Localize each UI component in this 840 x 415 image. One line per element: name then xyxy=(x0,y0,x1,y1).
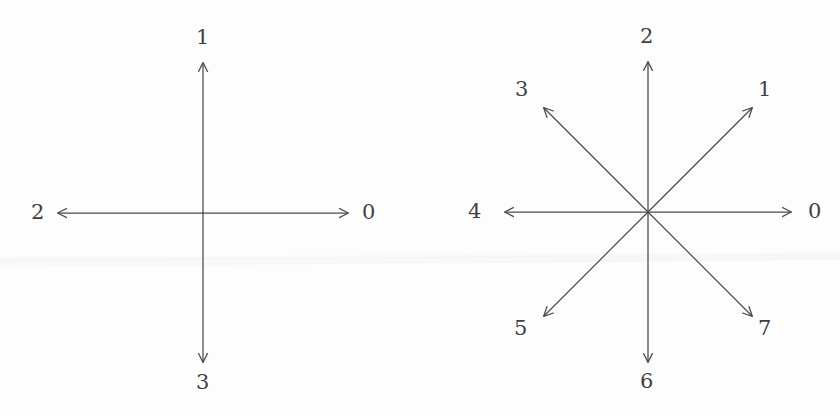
direction-label-2: 2 xyxy=(31,202,45,223)
eight-direction-diagram: 0 1 2 3 4 5 6 7 xyxy=(420,0,840,415)
direction-label-7: 7 xyxy=(758,318,772,339)
arrow-dir-1 xyxy=(648,108,752,212)
direction-label-4: 4 xyxy=(468,201,482,222)
direction-label-3: 3 xyxy=(196,372,210,393)
arrow-dir-5 xyxy=(544,212,648,316)
eight-direction-axes-svg xyxy=(420,0,840,415)
figure-page: 0 1 2 3 0 1 2 3 4 xyxy=(0,0,840,415)
direction-label-5: 5 xyxy=(514,318,528,339)
direction-label-0: 0 xyxy=(808,201,822,222)
direction-label-0: 0 xyxy=(362,202,376,223)
direction-label-1: 1 xyxy=(196,27,210,48)
direction-label-2: 2 xyxy=(640,26,654,47)
four-direction-axes-svg xyxy=(0,0,420,415)
direction-label-3: 3 xyxy=(515,79,529,100)
four-direction-diagram: 0 1 2 3 xyxy=(0,0,420,415)
arrow-dir-7 xyxy=(648,212,752,316)
direction-label-6: 6 xyxy=(640,371,654,392)
arrow-dir-3 xyxy=(544,108,648,212)
direction-label-1: 1 xyxy=(758,79,772,100)
